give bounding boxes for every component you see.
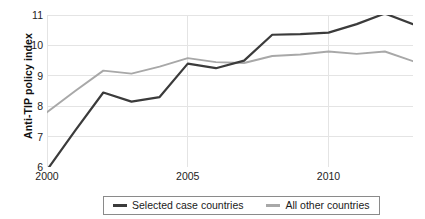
legend-label-all-other-countries: All other countries bbox=[285, 199, 369, 211]
grid-lines bbox=[47, 15, 413, 167]
legend-swatch-light bbox=[266, 204, 280, 207]
y-axis-tick-labels: 67891011 bbox=[10, 15, 43, 167]
legend-label-selected-case-countries: Selected case countries bbox=[132, 199, 243, 211]
x-tick-label-2005: 2005 bbox=[176, 170, 199, 182]
y-tick-label-11: 11 bbox=[13, 9, 43, 21]
series-line-selected-case-countries bbox=[47, 15, 413, 167]
plot-area bbox=[47, 15, 413, 167]
y-tick-label-8: 8 bbox=[13, 100, 43, 112]
chart-legend: Selected case countries All other countr… bbox=[103, 196, 380, 215]
legend-entry-all-other-countries: All other countries bbox=[266, 199, 369, 211]
y-tick-label-7: 7 bbox=[13, 131, 43, 143]
x-axis-tick-labels: 200020052010 bbox=[47, 170, 413, 186]
plot-svg bbox=[47, 15, 413, 167]
series-lines bbox=[47, 15, 413, 167]
y-tick-label-10: 10 bbox=[13, 39, 43, 51]
anti-tip-policy-index-line-chart: Anti-TIP policy index 67891011 200020052… bbox=[0, 0, 425, 219]
y-tick-label-9: 9 bbox=[13, 70, 43, 82]
x-tick-label-2000: 2000 bbox=[35, 170, 58, 182]
legend-swatch-dark bbox=[113, 204, 127, 207]
legend-entry-selected-case-countries: Selected case countries bbox=[113, 199, 243, 211]
x-tick-label-2010: 2010 bbox=[317, 170, 340, 182]
series-line-all-other-countries bbox=[47, 51, 413, 112]
